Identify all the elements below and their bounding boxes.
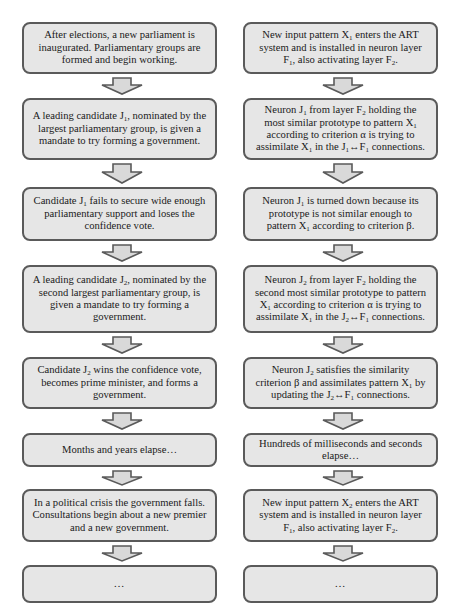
step-text: Neuron J2 from layer F2 holding the seco…: [253, 274, 428, 324]
down-arrow-icon: [321, 244, 365, 262]
political-step-2: A leading candidate J1, nominated by the…: [22, 98, 217, 160]
art-step-4: Neuron J2 from layer F2 holding the seco…: [243, 265, 438, 333]
step-text: Candidate J2 wins the confidence vote, b…: [32, 364, 207, 401]
step-text: After elections, a new parliament is ina…: [32, 29, 207, 66]
step-text: Months and years elapse…: [62, 444, 177, 456]
down-arrow-icon: [321, 163, 365, 184]
down-arrow-icon: [321, 545, 365, 562]
down-arrow-icon: [100, 336, 144, 354]
art-step-2: Neuron J1 from layer F2 holding the most…: [243, 98, 438, 160]
down-arrow-icon: [100, 77, 144, 95]
step-text: A leading candidate J2, nominated by the…: [32, 274, 207, 324]
down-arrow-icon: [321, 336, 365, 354]
step-text: Candidate J1 fails to secure wide enough…: [32, 195, 207, 232]
political-step-6: Months and years elapse…: [22, 433, 217, 467]
step-text: In a political crisis the government fal…: [32, 497, 207, 534]
down-arrow-icon: [100, 244, 144, 262]
step-text: Neuron J1 from layer F2 holding the most…: [253, 104, 428, 154]
political-process-column: After elections, a new parliament is ina…: [22, 0, 221, 616]
down-arrow-icon: [321, 470, 365, 486]
political-step-3: Candidate J1 fails to secure wide enough…: [22, 187, 217, 241]
political-step-4: A leading candidate J2, nominated by the…: [22, 265, 217, 333]
step-text: …: [114, 577, 126, 590]
art-step-7: New input pattern X2 enters the ART syst…: [243, 489, 438, 542]
art-step-1: New input pattern X1 enters the ART syst…: [243, 22, 438, 74]
step-text: New input pattern X2 enters the ART syst…: [253, 497, 428, 534]
down-arrow-icon: [100, 163, 144, 184]
step-text: Hundreds of milliseconds and seconds ela…: [253, 438, 428, 463]
down-arrow-icon: [100, 545, 144, 562]
art-step-3: Neuron J1 is turned down because its pro…: [243, 187, 438, 241]
art-step-6: Hundreds of milliseconds and seconds ela…: [243, 433, 438, 467]
art-step-5: Neuron J2 satisfies the similarity crite…: [243, 357, 438, 409]
political-step-8: …: [22, 565, 217, 603]
step-text: …: [335, 577, 347, 590]
step-text: Neuron J2 satisfies the similarity crite…: [253, 364, 428, 401]
down-arrow-icon: [100, 412, 144, 430]
art-network-column: New input pattern X1 enters the ART syst…: [243, 0, 442, 616]
political-step-5: Candidate J2 wins the confidence vote, b…: [22, 357, 217, 409]
art-step-8: …: [243, 565, 438, 603]
step-text: Neuron J1 is turned down because its pro…: [253, 195, 428, 232]
political-step-1: After elections, a new parliament is ina…: [22, 22, 217, 74]
down-arrow-icon: [321, 77, 365, 95]
step-text: New input pattern X1 enters the ART syst…: [253, 29, 428, 66]
down-arrow-icon: [321, 412, 365, 430]
political-step-7: In a political crisis the government fal…: [22, 489, 217, 542]
step-text: A leading candidate J1, nominated by the…: [32, 110, 207, 147]
down-arrow-icon: [100, 470, 144, 486]
